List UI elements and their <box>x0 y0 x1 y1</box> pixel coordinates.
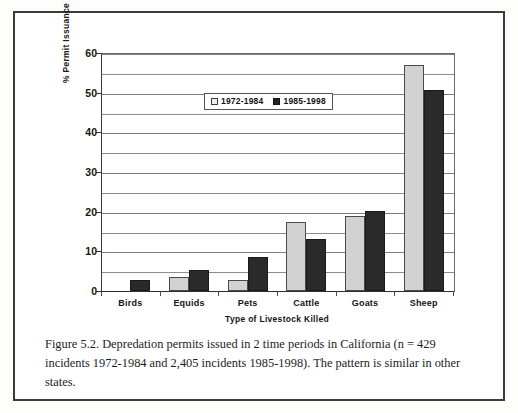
y-axis-tick-label: 10 <box>71 245 97 257</box>
legend-label: 1985-1998 <box>283 96 325 106</box>
bar <box>228 280 248 291</box>
bar <box>404 65 424 291</box>
x-axis-tick-mark <box>218 291 219 296</box>
bar <box>286 222 306 291</box>
x-axis-tick-mark <box>453 291 454 296</box>
y-axis-tick-label: 0 <box>71 285 97 297</box>
x-axis-category-label: Cattle <box>277 298 336 308</box>
scanned-page: % Permit Issuance 0102030405060 BirdsEqu… <box>0 0 518 413</box>
y-axis-tick-mark <box>96 212 101 213</box>
y-axis-tick-label: 50 <box>71 87 97 99</box>
x-axis-tick-mark <box>101 291 102 296</box>
y-axis-tick-mark <box>96 93 101 94</box>
x-axis-category-label: Pets <box>218 298 277 308</box>
x-axis-tick-mark <box>277 291 278 296</box>
bar <box>424 90 444 291</box>
legend-label: 1972-1984 <box>221 96 263 106</box>
x-axis-category-label: Goats <box>336 298 395 308</box>
x-axis-tick-mark <box>394 291 395 296</box>
y-axis-tick-label: 30 <box>71 166 97 178</box>
y-axis-tick-mark <box>96 172 101 173</box>
bar-group <box>160 53 219 291</box>
x-axis-title: Type of Livestock Killed <box>101 314 453 324</box>
y-axis-tick-mark <box>96 132 101 133</box>
legend-swatch-icon <box>273 98 280 105</box>
bar <box>365 211 385 291</box>
bar-group <box>277 53 336 291</box>
bar <box>130 280 150 291</box>
bar <box>345 216 365 291</box>
legend-item: 1972-1984 <box>211 96 263 106</box>
y-axis-tick-label: 20 <box>71 206 97 218</box>
bar <box>189 270 209 291</box>
x-axis-category-labels: BirdsEquidsPetsCattleGoatsSheep <box>101 298 453 308</box>
figure-caption: Figure 5.2. Depredation permits issued i… <box>45 335 475 392</box>
legend-item: 1985-1998 <box>273 96 325 106</box>
x-axis-category-label: Equids <box>160 298 219 308</box>
bars-container <box>101 53 453 291</box>
y-axis-tick-labels: 0102030405060 <box>67 53 97 291</box>
bar-group <box>336 53 395 291</box>
y-axis-tick-mark <box>96 53 101 54</box>
y-axis-tick-label: 40 <box>71 126 97 138</box>
y-axis-tick-mark <box>96 251 101 252</box>
bar-group <box>218 53 277 291</box>
bar <box>306 239 326 291</box>
x-axis-tick-marks <box>101 291 453 297</box>
x-axis-tick-mark <box>160 291 161 296</box>
figure-border-frame: % Permit Issuance 0102030405060 BirdsEqu… <box>13 11 505 401</box>
bar-group <box>394 53 453 291</box>
chart-legend: 1972-19841985-1998 <box>204 93 333 110</box>
legend-swatch-icon <box>211 98 218 105</box>
x-axis-tick-mark <box>336 291 337 296</box>
y-axis-tick-label: 60 <box>71 47 97 59</box>
bar-group <box>101 53 160 291</box>
bar <box>169 277 189 291</box>
bar-chart: % Permit Issuance 0102030405060 BirdsEqu… <box>15 13 503 323</box>
x-axis-category-label: Birds <box>101 298 160 308</box>
y-axis-tick-mark <box>96 291 101 292</box>
x-axis-category-label: Sheep <box>394 298 453 308</box>
bar <box>248 257 268 291</box>
